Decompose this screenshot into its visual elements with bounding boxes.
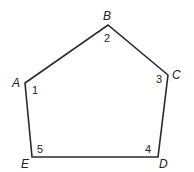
vertex-label-C: C [172, 68, 181, 82]
vertex-label-B: B [103, 9, 111, 23]
pentagon-diagram: A 1 B 2 C 3 D 4 E 5 [0, 0, 194, 172]
angle-label-5: 5 [37, 143, 43, 155]
vertex-label-A: A [11, 76, 20, 90]
angle-label-4: 4 [145, 143, 151, 155]
angle-label-1: 1 [32, 84, 38, 96]
vertex-label-E: E [21, 157, 30, 171]
angle-label-2: 2 [104, 32, 110, 44]
vertex-label-D: D [159, 157, 168, 171]
angle-label-3: 3 [156, 73, 162, 85]
pentagon-shape [25, 25, 168, 157]
